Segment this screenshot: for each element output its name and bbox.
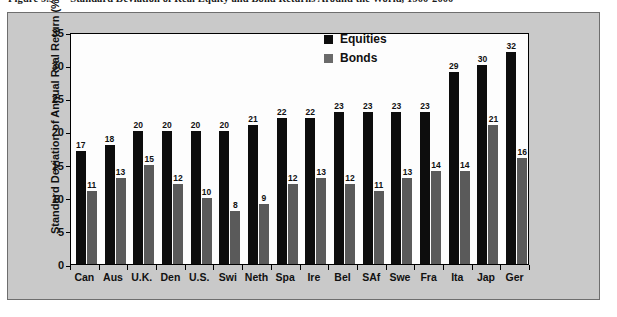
bar-bonds[interactable]: 13 <box>316 178 326 264</box>
x-axis-tick-mark <box>472 265 473 270</box>
bar-group: 1711 <box>74 34 97 264</box>
x-axis-tick-mark <box>242 265 243 270</box>
y-axis-tick-label: 20 <box>52 126 64 139</box>
figure-caption-text: Standard Deviation of Real Equity and Bo… <box>70 0 453 4</box>
bar-value-label: 14 <box>431 161 440 170</box>
x-axis-label-aus: Aus <box>103 271 123 283</box>
bar-group: 3021 <box>475 34 498 264</box>
y-axis-tick-label: 25 <box>52 93 64 106</box>
bar-equities[interactable]: 17 <box>76 151 86 264</box>
bar-bonds[interactable]: 11 <box>374 191 384 264</box>
bar-bonds[interactable]: 13 <box>402 178 412 264</box>
bar-equities[interactable]: 23 <box>391 112 401 264</box>
bar-value-label: 13 <box>116 168 125 177</box>
bar-bonds[interactable]: 21 <box>488 125 498 264</box>
bar-value-label: 9 <box>262 194 267 203</box>
legend-item-equities[interactable]: Equities <box>324 31 387 47</box>
bar-value-label: 21 <box>248 115 257 124</box>
x-axis-label-saf: SAf <box>362 271 380 283</box>
x-axis-tick-mark <box>185 265 186 270</box>
bar-equities[interactable]: 22 <box>277 118 287 264</box>
bar-value-label: 23 <box>363 102 372 111</box>
bar-bonds[interactable]: 8 <box>230 211 240 264</box>
x-axis-label-jap: Jap <box>477 271 495 283</box>
x-axis-tick-mark <box>443 265 444 270</box>
bar-value-label: 11 <box>374 181 383 190</box>
bar-equities[interactable]: 18 <box>105 145 115 264</box>
bar-equities[interactable]: 23 <box>363 112 373 264</box>
bar-group: 208 <box>217 34 240 264</box>
bar-equities[interactable]: 22 <box>305 118 315 264</box>
bar-bonds[interactable]: 12 <box>288 184 298 264</box>
bar-bonds[interactable]: 14 <box>460 171 470 264</box>
bar-equities[interactable]: 32 <box>506 52 516 264</box>
x-axis-tick-mark <box>300 265 301 270</box>
figure-caption: Figure 9.3Standard Deviation of Real Equ… <box>8 0 608 5</box>
bar-group: 1813 <box>103 34 126 264</box>
bar-bonds[interactable]: 13 <box>116 178 126 264</box>
bar-group: 2313 <box>389 34 412 264</box>
bar-equities[interactable]: 20 <box>219 131 229 264</box>
bar-equities[interactable]: 20 <box>133 131 143 264</box>
bar-value-label: 14 <box>460 161 469 170</box>
bar-bonds[interactable]: 12 <box>345 184 355 264</box>
bar-bonds[interactable]: 14 <box>431 171 441 264</box>
x-axis-label-den: Den <box>160 271 180 283</box>
bar-equities[interactable]: 20 <box>162 131 172 264</box>
legend-swatch-icon <box>324 35 333 44</box>
x-axis-label-ita: Ita <box>451 271 463 283</box>
x-axis-tick-mark <box>386 265 387 270</box>
x-axis-label-ire: Ire <box>307 271 320 283</box>
y-axis-tick-label: 15 <box>52 160 64 173</box>
bar-value-label: 30 <box>478 55 487 64</box>
x-axis-label-swe: Swe <box>389 271 410 283</box>
figure-panel: Standard Deviation of Annual Real Return… <box>7 12 600 300</box>
plot-area: 05101520253035 1711181320152012201020821… <box>70 33 529 265</box>
x-axis-tick-mark <box>70 265 71 270</box>
bar-value-label: 20 <box>162 121 171 130</box>
y-axis-tick-label: 35 <box>52 27 64 40</box>
x-axis-tick-mark <box>156 265 157 270</box>
figure-number: Figure 9.3 <box>8 0 54 4</box>
x-axis-tick-mark <box>271 265 272 270</box>
bar-group: 3216 <box>504 34 527 264</box>
bar-equities[interactable]: 23 <box>334 112 344 264</box>
bar-group: 2012 <box>160 34 183 264</box>
x-axis-label-uk: U.K. <box>131 271 152 283</box>
bar-bonds[interactable]: 10 <box>202 198 212 264</box>
bar-equities[interactable]: 23 <box>420 112 430 264</box>
bar-value-label: 12 <box>288 174 297 183</box>
x-axis-labels: CanAusU.K.DenU.S.SwiNethSpaIreBelSAfSweF… <box>70 271 529 287</box>
bar-value-label: 11 <box>87 181 96 190</box>
x-axis-label-can: Can <box>74 271 94 283</box>
bar-equities[interactable]: 29 <box>449 72 459 264</box>
bar-equities[interactable]: 30 <box>477 65 487 264</box>
bar-value-label: 16 <box>517 148 526 157</box>
bar-group: 2010 <box>189 34 212 264</box>
bar-value-label: 20 <box>133 121 142 130</box>
bar-bonds[interactable]: 16 <box>517 158 527 264</box>
bar-group: 2213 <box>303 34 326 264</box>
bar-bonds[interactable]: 11 <box>87 191 97 264</box>
bar-bonds[interactable]: 12 <box>173 184 183 264</box>
bar-bonds[interactable]: 9 <box>259 204 269 264</box>
legend-item-bonds[interactable]: Bonds <box>324 50 387 66</box>
y-axis-tick-label: 0 <box>58 259 64 272</box>
bar-value-label: 15 <box>144 155 153 164</box>
x-axis-tick-mark <box>414 265 415 270</box>
bar-series-container: 1711181320152012201020821922122213231223… <box>71 34 528 264</box>
chart-legend: EquitiesBonds <box>324 31 387 69</box>
bar-group: 219 <box>246 34 269 264</box>
bar-value-label: 23 <box>334 102 343 111</box>
bar-value-label: 22 <box>306 108 315 117</box>
bar-group: 2015 <box>131 34 154 264</box>
x-axis-label-spa: Spa <box>276 271 295 283</box>
x-axis-label-swi: Swi <box>219 271 237 283</box>
bar-value-label: 13 <box>317 168 326 177</box>
legend-label: Equities <box>340 32 387 46</box>
bar-bonds[interactable]: 15 <box>144 165 154 264</box>
bar-equities[interactable]: 20 <box>191 131 201 264</box>
x-axis-label-bel: Bel <box>334 271 350 283</box>
bar-equities[interactable]: 21 <box>248 125 258 264</box>
x-axis-tick-mark <box>127 265 128 270</box>
